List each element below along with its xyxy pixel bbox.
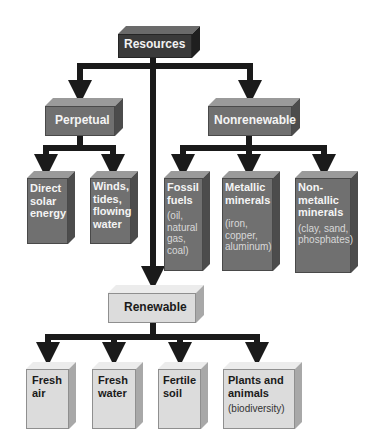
renewable-label: Renewable [124, 301, 187, 315]
non-metallic-minerals-detail: (clay, sand, phosphates) [298, 223, 352, 246]
metallic-minerals-detail: (iron, copper, aluminum) [225, 218, 275, 253]
renewable-box: Renewable [108, 285, 204, 323]
fossil-fuels-box: Fossil fuels (oil, natural gas, coal) [164, 171, 210, 271]
non-metallic-minerals-title: Non-metallic minerals [298, 181, 343, 218]
plants-animals-title: Plants and animals [228, 374, 284, 399]
nonrenewable-label: Nonrenewable [214, 114, 296, 128]
nonrenewable-box: Nonrenewable [208, 98, 300, 136]
non-metallic-minerals-box: Non-metallic minerals (clay, sand, phosp… [295, 171, 358, 273]
metallic-minerals-label: Metallic minerals (iron, copper, aluminu… [225, 181, 275, 253]
metallic-minerals-title: Metallic minerals [225, 181, 270, 206]
fertile-soil-label: Fertile soil [163, 374, 201, 399]
fossil-fuels-title: Fossil fuels [167, 181, 199, 206]
fresh-water-box: Fresh water [92, 362, 143, 429]
fresh-air-box: Fresh air [26, 362, 76, 429]
fertile-soil-box: Fertile soil [158, 362, 208, 429]
fresh-water-label: Fresh water [98, 374, 136, 399]
fossil-fuels-label: Fossil fuels (oil, natural gas, coal) [167, 181, 205, 256]
perpetual-label: Perpetual [55, 114, 110, 128]
plants-animals-label: Plants and animals (biodiversity) [228, 374, 296, 415]
plants-animals-detail: (biodiversity) [228, 403, 296, 415]
resources-label: Resources [124, 38, 185, 52]
resources-box: Resources [118, 26, 200, 58]
direct-solar-energy-label: Direct solar energy [30, 182, 68, 220]
non-metallic-minerals-label: Non-metallic minerals (clay, sand, phosp… [298, 181, 352, 246]
metallic-minerals-box: Metallic minerals (iron, copper, aluminu… [222, 171, 280, 271]
perpetual-box: Perpetual [45, 98, 123, 136]
fossil-fuels-detail: (oil, natural gas, coal) [167, 210, 205, 256]
winds-tides-box: Winds, tides, flowing water [90, 171, 138, 244]
direct-solar-energy-box: Direct solar energy [27, 171, 75, 244]
plants-animals-box: Plants and animals (biodiversity) [223, 362, 302, 429]
fresh-air-label: Fresh air [32, 374, 68, 399]
winds-tides-label: Winds, tides, flowing water [93, 180, 133, 231]
